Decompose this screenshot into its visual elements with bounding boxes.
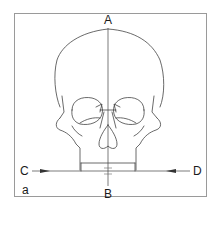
right-orbit	[113, 98, 144, 125]
left-orbit-inner	[80, 118, 100, 123]
arrow-d-icon	[166, 169, 176, 173]
cranium-outline	[55, 29, 164, 107]
panel-label: a	[22, 184, 29, 196]
landmark-a: A	[104, 14, 112, 26]
landmark-d: D	[193, 165, 202, 177]
right-zygomatic	[136, 118, 161, 170]
landmark-b: B	[104, 188, 112, 200]
left-orbit	[72, 98, 103, 125]
left-temporal	[60, 96, 64, 118]
right-temporal	[152, 96, 157, 118]
arrow-c-icon	[40, 169, 50, 173]
landmark-c: C	[20, 165, 29, 177]
right-orbit-inner	[116, 118, 136, 123]
left-zygomatic	[56, 118, 80, 170]
